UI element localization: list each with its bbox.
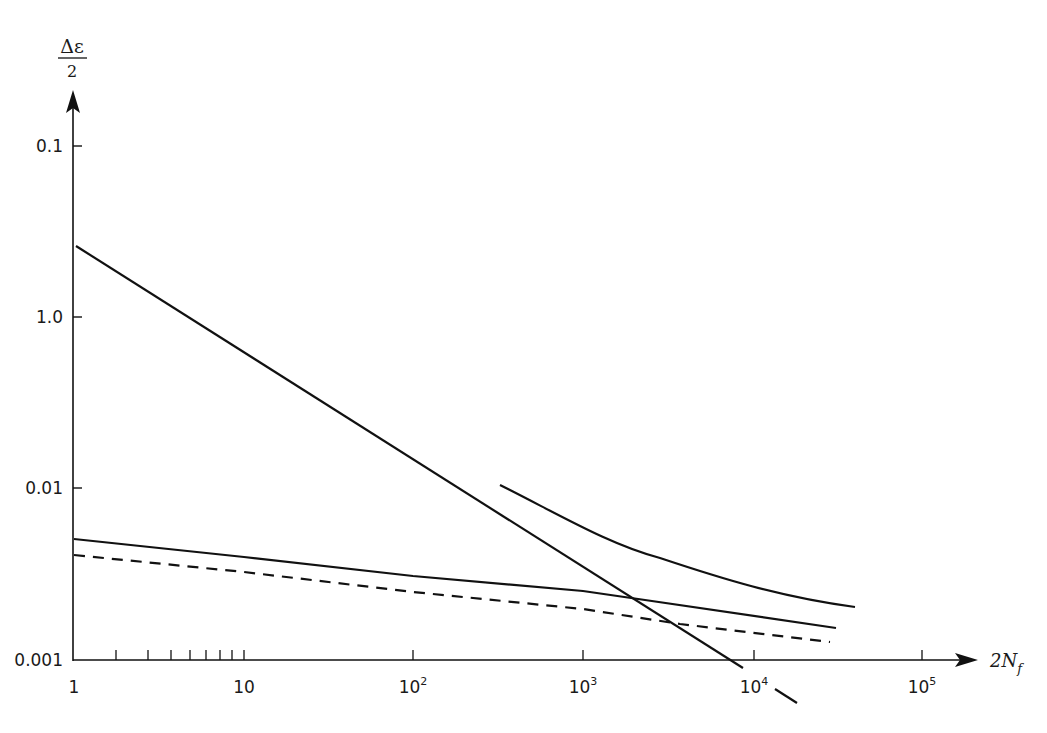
x-tick-label: 10	[233, 677, 255, 697]
series-plastic-line	[76, 246, 797, 703]
y-axis-title: Δε 2	[58, 35, 87, 81]
series-elastic-line	[74, 539, 836, 628]
x-tick-label: 105	[908, 675, 937, 697]
x-axis-title: 2Nf	[989, 650, 1024, 676]
x-axis	[73, 650, 978, 667]
y-axis	[66, 90, 82, 661]
x-tick-label: 104	[740, 675, 769, 697]
x-tick-label: 103	[569, 675, 598, 697]
strain-life-chart: Δε 2 0.1 1.0 0.01 0.001 1 10 102 103 104…	[0, 0, 1047, 733]
x-tick-label: 102	[399, 675, 428, 697]
y-tick-label: 0.1	[36, 136, 63, 156]
y-axis-title-numerator: Δε	[60, 35, 84, 57]
y-tick-label: 1.0	[36, 307, 63, 327]
y-tick-label: 0.01	[25, 478, 63, 498]
series-elastic-dashed-line	[74, 555, 830, 642]
x-tick-label: 1	[69, 677, 80, 697]
y-axis-title-denominator: 2	[67, 62, 77, 81]
y-tick-label: 0.001	[14, 650, 63, 670]
